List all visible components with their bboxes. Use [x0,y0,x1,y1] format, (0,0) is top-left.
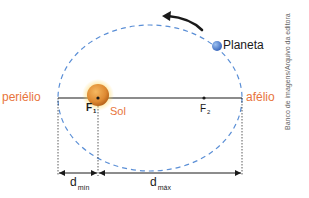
dmin-letter: d [70,175,77,189]
focus2-letter: F [200,103,206,114]
focus1-subscript: 1 [93,108,96,114]
focus1-dot [96,96,99,99]
dmin-subscript: mín [78,184,90,191]
motion-arrow [168,16,202,30]
focus2-dot [202,96,205,99]
dmax-letter: d [150,175,157,189]
planet-label: Planeta [223,39,264,51]
image-credit: Banco de imagens/Arquivo da editora [284,13,291,130]
motion-arrowhead [162,11,171,21]
perihelion-label: periélio [2,91,41,103]
dmax-subscript: máx [158,184,171,191]
dmax-label: dmáx [150,176,171,188]
focus1-letter: F [86,102,92,113]
focus2-label: F2 [200,104,210,114]
aphelion-label: afélio [246,91,275,103]
planet [212,41,222,51]
focus1-label: F1 [86,103,96,113]
dmin-label: dmín [70,176,89,188]
sun-label: Sol [110,106,126,117]
focus2-subscript: 2 [207,109,210,115]
